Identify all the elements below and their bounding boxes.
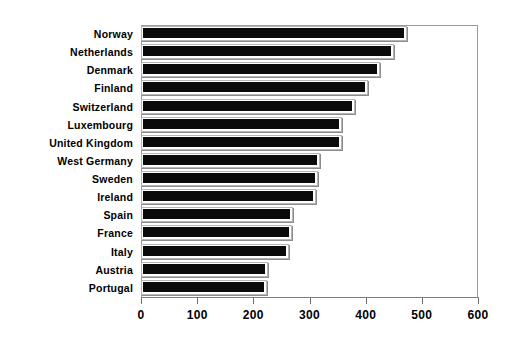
x-tick-mark [366, 298, 367, 304]
bar [141, 171, 318, 186]
x-tick-mark [197, 298, 198, 304]
category-label: Norway [94, 25, 133, 43]
x-axis-ticks: 0100200300400500600 [0, 298, 513, 338]
x-tick-label: 0 [111, 308, 171, 322]
bar-fill [143, 137, 339, 147]
category-label: West Germany [57, 152, 133, 170]
x-tick-label: 600 [448, 308, 508, 322]
category-label: Netherlands [70, 43, 133, 61]
bar-fill [143, 46, 391, 56]
bar [141, 117, 342, 132]
bar-fill [143, 191, 313, 201]
bar [141, 62, 380, 77]
bar-fill [143, 173, 315, 183]
bar [141, 280, 267, 295]
category-label: Luxembourg [67, 116, 133, 134]
bar [141, 80, 368, 95]
bar [141, 207, 293, 222]
bar-fill [143, 64, 377, 74]
x-tick-mark [253, 298, 254, 304]
x-tick-mark [141, 298, 142, 304]
bar [141, 262, 268, 277]
category-label: United Kingdom [49, 134, 133, 152]
bar-chart: NorwayNetherlandsDenmarkFinlandSwitzerla… [0, 0, 513, 345]
category-label: Switzerland [72, 98, 133, 116]
bar [141, 225, 292, 240]
bar [141, 153, 320, 168]
x-tick-label: 200 [223, 308, 283, 322]
bar [141, 44, 394, 59]
bar-fill [143, 264, 265, 274]
category-label: Denmark [87, 61, 133, 79]
bar [141, 99, 355, 114]
category-label: Spain [103, 206, 133, 224]
bar-fill [143, 155, 317, 165]
x-tick-label: 100 [167, 308, 227, 322]
category-label: Sweden [92, 170, 133, 188]
bar-fill [143, 119, 339, 129]
bar-fill [143, 227, 289, 237]
category-label: Italy [111, 243, 133, 261]
category-label: Finland [94, 79, 133, 97]
bar-fill [143, 282, 264, 292]
x-tick-mark [422, 298, 423, 304]
bar [141, 244, 289, 259]
bar-fill [143, 82, 365, 92]
bar-fill [143, 209, 290, 219]
bar [141, 135, 342, 150]
x-tick-label: 300 [280, 308, 340, 322]
bar-series [141, 25, 478, 297]
x-tick-mark [310, 298, 311, 304]
bar-fill [143, 101, 352, 111]
category-label: Ireland [97, 188, 133, 206]
bar-fill [143, 246, 286, 256]
category-label: Austria [95, 261, 133, 279]
category-label: France [97, 224, 133, 242]
x-tick-mark [478, 298, 479, 304]
x-tick-label: 400 [336, 308, 396, 322]
bar [141, 189, 316, 204]
category-axis-labels: NorwayNetherlandsDenmarkFinlandSwitzerla… [0, 25, 137, 297]
bar-fill [143, 28, 404, 38]
category-label: Portugal [89, 279, 133, 297]
x-tick-label: 500 [392, 308, 452, 322]
bar [141, 26, 407, 41]
